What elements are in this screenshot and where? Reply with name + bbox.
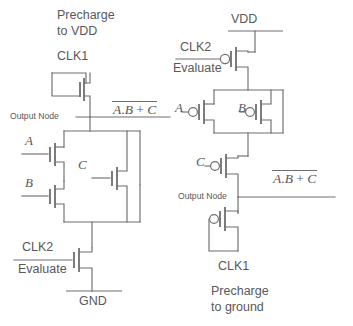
vdd-label: VDD — [231, 12, 257, 27]
left-output-node-label: Output Node — [10, 111, 59, 121]
gnd-label: GND — [79, 294, 107, 309]
schematic-canvas — [0, 0, 353, 326]
right-output-node-label: Output Node — [178, 191, 227, 201]
right-output-expression: A.B + C — [272, 170, 317, 188]
pmos-precharge-clk1 — [209, 207, 238, 251]
right-expression-text: A.B + C — [272, 170, 317, 188]
left-precharge-note-line2: to VDD — [57, 24, 97, 39]
left-input-a-label: A — [25, 133, 33, 148]
nmos-input-c — [92, 131, 127, 222]
right-precharge-note-line1: Precharge — [211, 284, 269, 299]
left-precharge-note-line1: Precharge — [57, 8, 115, 23]
left-clk2-label: CLK2 — [22, 240, 53, 255]
right-input-c-label: C — [196, 154, 205, 169]
right-input-a-label: A — [175, 100, 183, 115]
right-clk2-label: CLK2 — [180, 40, 211, 55]
pmos-input-a — [182, 100, 214, 133]
left-clk1-label: CLK1 — [57, 49, 88, 64]
right-precharge-note-line2: to ground — [211, 300, 264, 315]
left-input-c-label: C — [78, 157, 87, 172]
left-input-b-label: B — [25, 175, 33, 190]
right-input-b-label: B — [238, 100, 246, 115]
right-evaluate-label: Evaluate — [173, 61, 222, 76]
right-clk1-label: CLK1 — [218, 259, 249, 274]
left-evaluate-label: Evaluate — [18, 262, 67, 277]
left-output-expression: A.B + C — [112, 101, 157, 119]
circuit-diagram: Precharge to VDD CLK1 Output Node A.B + … — [0, 0, 353, 326]
left-expression-text: A.B + C — [112, 101, 157, 119]
